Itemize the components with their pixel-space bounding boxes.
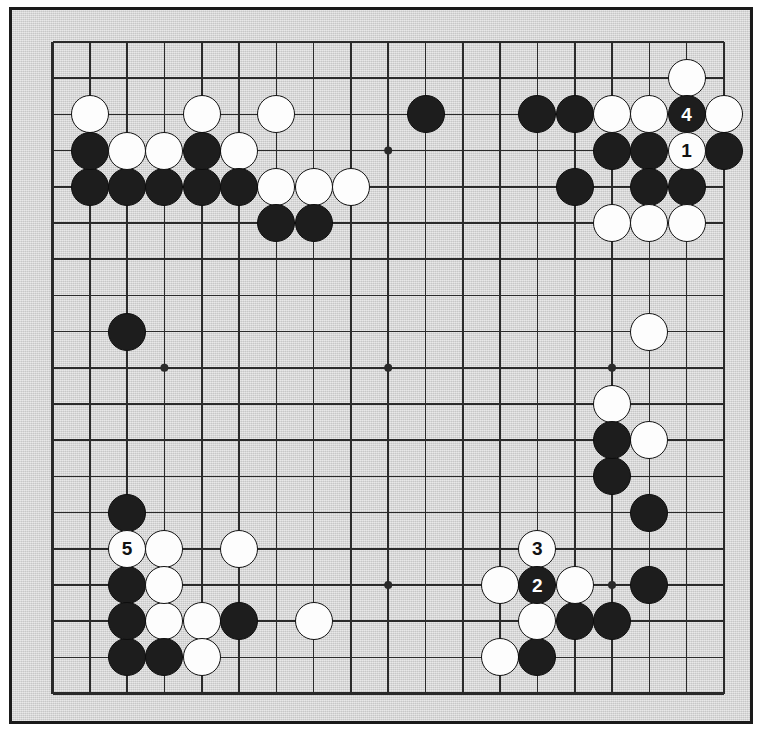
- black-stone[interactable]: [556, 168, 594, 206]
- black-stone[interactable]: [108, 168, 146, 206]
- black-stone[interactable]: [407, 95, 445, 133]
- stone-layer: 41532: [0, 0, 767, 735]
- numbered-stone[interactable]: 3: [518, 530, 556, 568]
- white-stone[interactable]: [481, 638, 519, 676]
- numbered-stone[interactable]: 1: [668, 132, 706, 170]
- black-stone[interactable]: [71, 132, 109, 170]
- numbered-stone[interactable]: 4: [668, 95, 706, 133]
- black-stone[interactable]: [183, 132, 221, 170]
- black-stone[interactable]: [630, 494, 668, 532]
- white-stone[interactable]: [295, 168, 333, 206]
- white-stone[interactable]: [183, 95, 221, 133]
- white-stone[interactable]: [295, 602, 333, 640]
- move-number-label: 5: [122, 539, 133, 558]
- white-stone[interactable]: [183, 638, 221, 676]
- white-stone[interactable]: [518, 602, 556, 640]
- numbered-stone[interactable]: 5: [108, 530, 146, 568]
- white-stone[interactable]: [630, 95, 668, 133]
- white-stone[interactable]: [593, 385, 631, 423]
- white-stone[interactable]: [668, 204, 706, 242]
- white-stone[interactable]: [630, 204, 668, 242]
- black-stone[interactable]: [108, 566, 146, 604]
- white-stone[interactable]: [145, 132, 183, 170]
- black-stone[interactable]: [705, 132, 743, 170]
- white-stone[interactable]: [593, 95, 631, 133]
- black-stone[interactable]: [108, 313, 146, 351]
- black-stone[interactable]: [593, 132, 631, 170]
- black-stone[interactable]: [220, 602, 258, 640]
- go-diagram-root: 41532: [0, 0, 767, 735]
- white-stone[interactable]: [71, 95, 109, 133]
- black-stone[interactable]: [295, 204, 333, 242]
- white-stone[interactable]: [630, 313, 668, 351]
- white-stone[interactable]: [556, 566, 594, 604]
- white-stone[interactable]: [705, 95, 743, 133]
- black-stone[interactable]: [145, 168, 183, 206]
- white-stone[interactable]: [220, 132, 258, 170]
- white-stone[interactable]: [257, 95, 295, 133]
- black-stone[interactable]: [145, 638, 183, 676]
- black-stone[interactable]: [593, 602, 631, 640]
- black-stone[interactable]: [518, 95, 556, 133]
- white-stone[interactable]: [145, 530, 183, 568]
- black-stone[interactable]: [183, 168, 221, 206]
- black-stone[interactable]: [556, 602, 594, 640]
- move-number-label: 4: [681, 105, 692, 124]
- white-stone[interactable]: [668, 59, 706, 97]
- black-stone[interactable]: [668, 168, 706, 206]
- black-stone[interactable]: [630, 566, 668, 604]
- black-stone[interactable]: [108, 638, 146, 676]
- white-stone[interactable]: [593, 204, 631, 242]
- numbered-stone[interactable]: 2: [518, 566, 556, 604]
- black-stone[interactable]: [556, 95, 594, 133]
- white-stone[interactable]: [220, 530, 258, 568]
- black-stone[interactable]: [220, 168, 258, 206]
- white-stone[interactable]: [145, 566, 183, 604]
- black-stone[interactable]: [593, 421, 631, 459]
- white-stone[interactable]: [183, 602, 221, 640]
- white-stone[interactable]: [332, 168, 370, 206]
- move-number-label: 3: [532, 539, 543, 558]
- black-stone[interactable]: [593, 457, 631, 495]
- white-stone[interactable]: [108, 132, 146, 170]
- move-number-label: 2: [532, 576, 543, 595]
- white-stone[interactable]: [630, 421, 668, 459]
- black-stone[interactable]: [518, 638, 556, 676]
- black-stone[interactable]: [630, 168, 668, 206]
- white-stone[interactable]: [257, 168, 295, 206]
- black-stone[interactable]: [108, 602, 146, 640]
- black-stone[interactable]: [108, 494, 146, 532]
- white-stone[interactable]: [481, 566, 519, 604]
- black-stone[interactable]: [257, 204, 295, 242]
- black-stone[interactable]: [630, 132, 668, 170]
- white-stone[interactable]: [145, 602, 183, 640]
- black-stone[interactable]: [71, 168, 109, 206]
- move-number-label: 1: [681, 141, 692, 160]
